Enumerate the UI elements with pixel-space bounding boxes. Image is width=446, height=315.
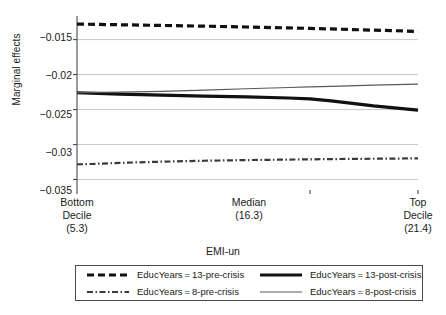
x-axis-title: EMI-un: [0, 245, 446, 257]
x-tick-line: Decile: [60, 209, 93, 222]
legend-item: EducYears = 8-post-crisis: [249, 286, 422, 297]
x-tick-line: Decile: [403, 209, 432, 222]
series-line: [77, 158, 418, 164]
chart-figure: Marginal effects −0.015 −0.02 −0.025 −0.…: [0, 0, 446, 315]
legend-label: EducYears = 13-post-crisis: [310, 269, 421, 280]
x-tick-line: (5.3): [60, 222, 93, 235]
legend-line-icon: [259, 270, 303, 280]
legend-item: EducYears = 13-pre-crisis: [76, 269, 249, 280]
x-tick-line: Bottom: [60, 196, 93, 209]
x-tick-label-top-decile: Top Decile (21.4): [403, 196, 432, 235]
x-tick-line: Median: [232, 196, 266, 209]
legend-line-icon: [259, 287, 303, 297]
legend-label: EducYears = 8-post-crisis: [310, 286, 416, 297]
legend-label: EducYears = 8-pre-crisis: [137, 286, 239, 297]
legend-item: EducYears = 13-post-crisis: [249, 269, 422, 280]
legend-item: EducYears = 8-pre-crisis: [76, 286, 249, 297]
x-tick-line: Top: [403, 196, 432, 209]
x-tick-label-median: Median (16.3): [232, 196, 266, 222]
legend-line-icon: [86, 287, 130, 297]
x-tick-line: (16.3): [232, 209, 266, 222]
series-line: [77, 93, 418, 110]
series-line: [77, 24, 418, 31]
x-tick-line: (21.4): [403, 222, 432, 235]
series-line: [77, 84, 418, 92]
legend-label: EducYears = 13-pre-crisis: [137, 269, 244, 280]
x-tick-label-bottom-decile: Bottom Decile (5.3): [60, 196, 93, 235]
legend-line-icon: [86, 270, 130, 280]
chart-legend: EducYears = 13-pre-crisis EducYears = 13…: [75, 265, 423, 301]
